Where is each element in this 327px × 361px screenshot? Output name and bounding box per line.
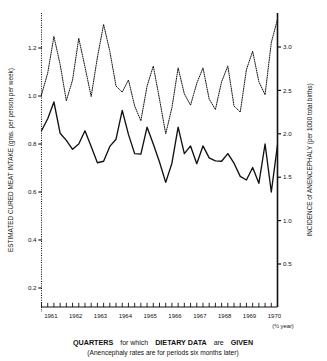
right-tick-label: 1.0 xyxy=(283,217,292,224)
x-year-label: 1961 xyxy=(44,313,58,319)
caption-line-2: (Anencephaly rates are for periods six m… xyxy=(87,349,238,357)
left-tick-label: 0.2 xyxy=(28,284,37,291)
left-axis-title: ESTIMATED CURED MEAT INTAKE (gms. per pe… xyxy=(7,68,15,252)
x-year-label: 1970 xyxy=(268,313,282,319)
x-year-label: 1962 xyxy=(69,313,83,319)
x-axis-half-year-note: (½ year) xyxy=(272,323,294,329)
left-tick-label: 0.6 xyxy=(28,188,37,195)
right-axis-title: INCIDENCE of ANENCEPHALY (per 1000 total… xyxy=(306,83,314,236)
anencephaly-cured-meat-chart: 1.21.00.80.60.40.2 3.02.52.01.51.00.5 19… xyxy=(0,0,327,361)
x-year-label: 1964 xyxy=(119,313,133,319)
left-tick-label: 0.4 xyxy=(28,236,37,243)
caption-forwhich: for which xyxy=(120,339,148,346)
caption-given: GIVEN xyxy=(231,338,253,347)
chart-figure: 1.21.00.80.60.40.2 3.02.52.01.51.00.5 19… xyxy=(0,0,327,361)
caption-are: are xyxy=(214,339,224,346)
right-tick-label: 2.0 xyxy=(283,130,292,137)
x-year-label: 1967 xyxy=(193,313,207,319)
right-tick-label: 3.0 xyxy=(283,43,292,50)
left-tick-label: 1.0 xyxy=(28,92,37,99)
x-year-label: 1965 xyxy=(144,313,158,319)
left-tick-label: 0.8 xyxy=(28,140,37,147)
right-tick-label: 1.5 xyxy=(283,173,292,180)
x-year-label: 1966 xyxy=(168,313,182,319)
x-year-label: 1969 xyxy=(243,313,257,319)
x-year-label: 1968 xyxy=(218,313,232,319)
left-tick-label: 1.2 xyxy=(28,44,37,51)
caption-dietary-data: DIETARY DATA xyxy=(155,338,207,347)
right-tick-label: 0.5 xyxy=(283,260,292,267)
right-tick-label: 2.5 xyxy=(283,87,292,94)
x-year-label: 1963 xyxy=(94,313,108,319)
caption-quarters: QUARTERS xyxy=(73,338,114,347)
